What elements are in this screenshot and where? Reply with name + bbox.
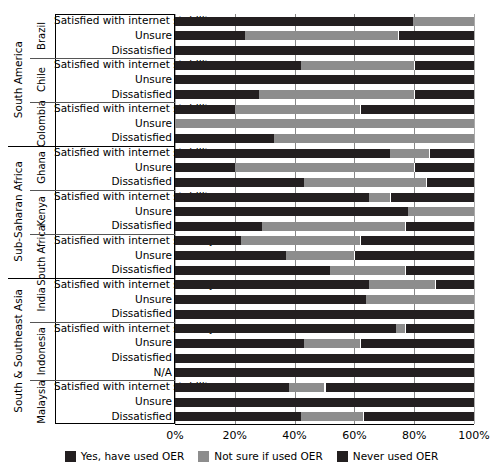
- row-label: Dissatisfied: [54, 132, 172, 143]
- bar-row: [175, 119, 474, 128]
- legend-swatch: [198, 451, 209, 462]
- country-label: South Africa: [30, 234, 55, 278]
- bar-segment-never: [360, 339, 474, 348]
- x-tick-label: 40%: [282, 429, 306, 442]
- bar-row: [175, 222, 474, 231]
- bar-row: [175, 61, 474, 70]
- legend-label: Not sure if used OER: [214, 450, 322, 462]
- region-label: South America: [8, 14, 30, 146]
- legend-item: Not sure if used OER: [198, 450, 322, 462]
- bar-segment-never: [360, 236, 474, 245]
- bar-segment-notsure: [175, 119, 474, 128]
- bar-segment-notsure: [235, 105, 361, 114]
- bar-segment-used: [175, 149, 390, 158]
- bar-row: [175, 134, 474, 143]
- bar-row: [175, 280, 474, 289]
- bar-segment-used: [175, 324, 396, 333]
- bar-row: [175, 17, 474, 26]
- legend-item: Yes, have used OER: [65, 450, 185, 462]
- bar-segment-notsure: [286, 251, 355, 260]
- x-tick-label: 60%: [342, 429, 366, 442]
- bar-segment-never: [435, 280, 474, 289]
- row-label: Dissatisfied: [54, 411, 172, 422]
- row-label: Unsure: [54, 206, 172, 217]
- country-label-column: BrazilChileColombiaGhanaKenyaSouth Afric…: [30, 14, 55, 424]
- row-label: Satisfied with internet stability: [54, 381, 172, 392]
- x-tick-label: 20%: [223, 429, 247, 442]
- row-label: Satisfied with internet stability: [54, 323, 172, 334]
- bar-segment-used: [175, 310, 474, 319]
- row-label: Dissatisfied: [54, 176, 172, 187]
- bar-segment-used: [175, 193, 369, 202]
- bar-segment-never: [414, 61, 474, 70]
- bar-segment-notsure: [301, 61, 415, 70]
- bar-segment-used: [175, 354, 474, 363]
- bar-segment-notsure: [369, 193, 390, 202]
- row-label: Satisfied with internet stability: [54, 59, 172, 70]
- bar-row: [175, 368, 474, 377]
- bar-row: [175, 105, 474, 114]
- bar-row: [175, 295, 474, 304]
- x-axis-line: [175, 424, 474, 425]
- bar-row: [175, 46, 474, 55]
- row-label: Satisfied with internet stability: [54, 103, 172, 114]
- x-tick-label: 100%: [458, 429, 489, 442]
- row-label: Dissatisfied: [54, 45, 172, 56]
- bar-row: [175, 324, 474, 333]
- bar-segment-used: [175, 295, 366, 304]
- bar-segment-notsure: [408, 207, 474, 216]
- row-label: Unsure: [54, 294, 172, 305]
- row-label: N/A: [54, 367, 172, 378]
- chart-legend: Yes, have used OERNot sure if used OERNe…: [0, 450, 503, 462]
- bar-row: [175, 383, 474, 392]
- bar-segment-never: [405, 324, 474, 333]
- bar-segment-never: [426, 178, 474, 187]
- bar-segment-never: [354, 251, 474, 260]
- bar-row: [175, 207, 474, 216]
- row-label: Satisfied with internet stability: [54, 279, 172, 290]
- bar-segment-used: [175, 46, 474, 55]
- bar-row: [175, 412, 474, 421]
- legend-swatch: [337, 451, 348, 462]
- row-label: Dissatisfied: [54, 220, 172, 231]
- gridline-100: [474, 14, 475, 424]
- region-label: Sub-Saharan Africa: [8, 146, 30, 278]
- country-label: India: [30, 278, 55, 322]
- bar-row: [175, 178, 474, 187]
- bar-row: [175, 149, 474, 158]
- bar-segment-never: [398, 31, 474, 40]
- bar-segment-never: [405, 266, 474, 275]
- country-label: Ghana: [30, 146, 55, 190]
- bar-segment-notsure: [413, 17, 474, 26]
- country-label: Malaysia: [30, 380, 55, 424]
- bar-segment-notsure: [259, 90, 414, 99]
- region-label: South & Southeast Asia: [8, 278, 30, 424]
- bar-segment-used: [175, 31, 245, 40]
- bar-segment-used: [175, 222, 262, 231]
- bar-segment-used: [175, 339, 304, 348]
- x-tick-label: 0%: [166, 429, 183, 442]
- bar-segment-used: [175, 75, 474, 84]
- bar-segment-used: [175, 251, 286, 260]
- row-label: Satisfied with internet stability: [54, 235, 172, 246]
- row-label: Unsure: [54, 250, 172, 261]
- bar-row: [175, 193, 474, 202]
- bar-segment-never: [363, 412, 474, 421]
- bar-segment-notsure: [330, 266, 405, 275]
- legend-label: Yes, have used OER: [81, 450, 185, 462]
- bar-segment-notsure: [304, 178, 427, 187]
- country-label: Indonesia: [30, 322, 55, 381]
- row-label: Satisfied with internet stability: [54, 15, 172, 26]
- row-label: Unsure: [54, 30, 172, 41]
- bar-segment-notsure: [369, 280, 435, 289]
- bar-segment-used: [175, 280, 369, 289]
- bar-row: [175, 354, 474, 363]
- bar-row: [175, 310, 474, 319]
- bar-row: [175, 251, 474, 260]
- bar-segment-never: [429, 149, 474, 158]
- bar-segment-notsure: [245, 31, 398, 40]
- legend-label: Never used OER: [353, 450, 438, 462]
- stacked-bar-chart: South AmericaSub-Saharan AfricaSouth & S…: [0, 0, 503, 475]
- row-label: Unsure: [54, 396, 172, 407]
- bar-segment-used: [175, 266, 330, 275]
